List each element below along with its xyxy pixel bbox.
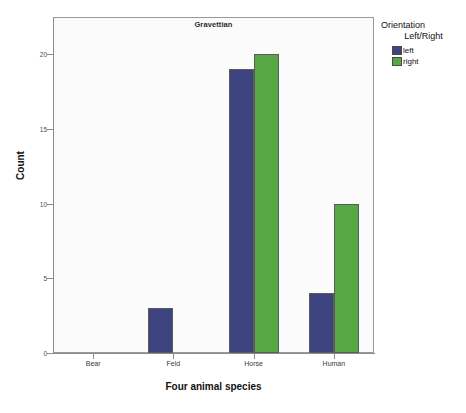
x-tick: [334, 353, 335, 359]
legend-swatch-right-icon: [392, 57, 402, 66]
x-tick: [254, 353, 255, 359]
y-tick: [47, 129, 54, 130]
legend-label: left: [403, 46, 414, 55]
bar-human-right: [334, 204, 359, 353]
legend-label: right: [403, 57, 419, 66]
bar-feld-left: [148, 308, 173, 353]
bar-chart: Gravettian 05101520 BearFeldHorseHuman F…: [0, 0, 466, 413]
y-tick: [47, 54, 54, 55]
bar-human-left: [309, 293, 334, 353]
x-tick: [93, 353, 94, 359]
legend-swatch-left-icon: [392, 46, 402, 55]
bar-horse-right: [254, 54, 279, 353]
legend-title-line1: Orientation: [381, 20, 425, 30]
y-tick: [47, 278, 54, 279]
x-axis-line: [53, 353, 375, 354]
y-tick-label: 0: [17, 350, 47, 357]
legend-title: Orientation Left/Right: [381, 20, 466, 42]
legend: Orientation Left/Right leftright: [381, 20, 466, 68]
x-tick-label: Human: [323, 360, 346, 367]
x-tick-label: Feld: [167, 360, 181, 367]
legend-entries: leftright: [381, 46, 466, 66]
y-axis-title: Count: [15, 106, 26, 226]
bar-horse-left: [229, 69, 254, 353]
y-tick: [47, 353, 54, 354]
legend-item-right[interactable]: right: [392, 57, 466, 66]
legend-title-line2: Left/Right: [381, 31, 466, 42]
y-tick-label: 5: [17, 275, 47, 282]
y-axis-line: [53, 17, 54, 353]
y-tick: [47, 204, 54, 205]
x-tick-label: Horse: [244, 360, 263, 367]
chart-title: Gravettian: [53, 20, 374, 29]
x-tick-label: Bear: [86, 360, 101, 367]
x-axis-title: Four animal species: [53, 381, 374, 392]
y-tick-label: 20: [17, 51, 47, 58]
x-tick: [173, 353, 174, 359]
legend-item-left[interactable]: left: [392, 46, 466, 55]
